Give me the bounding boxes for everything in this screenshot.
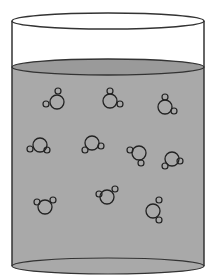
liquid-body — [12, 67, 204, 274]
beaker-bottom — [12, 258, 204, 274]
beaker-rim — [12, 13, 204, 29]
beaker-diagram — [0, 0, 214, 280]
beaker — [12, 13, 204, 274]
liquid-surface — [12, 59, 204, 75]
